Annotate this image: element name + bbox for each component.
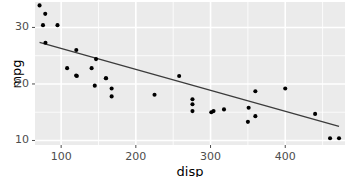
scatter-plot-figure: mpg disp 102030 100200300400: [0, 0, 345, 177]
axis-tick-marks: [0, 0, 345, 177]
